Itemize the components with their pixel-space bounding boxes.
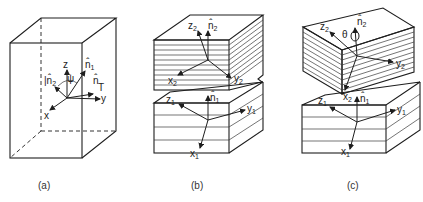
svg-text:x1: x1 (341, 146, 350, 158)
figure-canvas: z n̂1 |n̂2 ψ n̂ T y x (0, 0, 423, 202)
svg-text:y1: y1 (247, 103, 256, 115)
svg-text:|n̂2: |n̂2 (44, 73, 56, 87)
svg-text:z2: z2 (188, 20, 197, 32)
caption-c: (c) (347, 180, 359, 191)
svg-text:y2: y2 (234, 73, 243, 85)
svg-text:x2: x2 (343, 91, 352, 103)
svg-text:z1: z1 (318, 95, 327, 107)
svg-text:n̂1: n̂1 (210, 90, 220, 104)
svg-text:n̂1: n̂1 (360, 91, 370, 105)
caption-a: (a) (38, 180, 50, 191)
svg-text:x1: x1 (190, 148, 199, 160)
svg-text:θ: θ (342, 29, 348, 40)
svg-text:z2: z2 (320, 21, 329, 33)
svg-text:n̂2: n̂2 (357, 14, 367, 28)
svg-text:T: T (98, 82, 104, 93)
svg-text:n̂1: n̂1 (85, 57, 95, 71)
svg-text:z1: z1 (166, 94, 175, 106)
caption-b: (b) (191, 180, 203, 191)
svg-text:x2: x2 (168, 75, 177, 87)
svg-text:y: y (101, 93, 106, 104)
svg-text:n̂2: n̂2 (208, 18, 218, 32)
svg-text:ψ: ψ (67, 73, 74, 84)
svg-text:y1: y1 (397, 104, 406, 116)
svg-text:y2: y2 (396, 58, 405, 70)
svg-text:z: z (63, 59, 68, 70)
panel-a-labels: z n̂1 |n̂2 ψ n̂ T y x (44, 57, 106, 121)
svg-text:x: x (44, 110, 49, 121)
